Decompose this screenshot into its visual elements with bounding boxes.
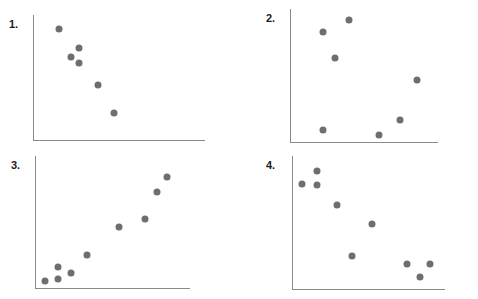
data-point (313, 168, 320, 175)
panel-label-3: 3. (11, 160, 20, 171)
y-axis-4 (292, 156, 293, 289)
x-axis-1 (33, 140, 205, 141)
panel-label-4: 4. (266, 160, 275, 171)
y-axis-1 (33, 15, 34, 140)
data-point (369, 220, 376, 227)
data-point (427, 261, 434, 268)
data-point (55, 26, 62, 33)
data-point (75, 60, 82, 67)
data-point (320, 29, 327, 36)
data-point (54, 276, 61, 283)
data-point (83, 252, 90, 259)
data-point (333, 202, 340, 209)
data-point (95, 82, 102, 89)
data-point (413, 77, 420, 84)
data-point (331, 54, 338, 61)
worksheet-canvas: 1. 2. 3. 4. (0, 0, 478, 299)
data-point (298, 180, 305, 187)
data-point (320, 127, 327, 134)
data-point (396, 117, 403, 124)
data-point (116, 224, 123, 231)
panel-label-2: 2. (266, 13, 275, 24)
data-point (404, 261, 411, 268)
data-point (54, 264, 61, 271)
data-point (67, 269, 74, 276)
data-point (111, 110, 118, 117)
y-axis-3 (35, 156, 36, 288)
data-point (164, 173, 171, 180)
data-point (68, 54, 75, 61)
y-axis-2 (290, 9, 291, 142)
x-axis-4 (292, 289, 445, 290)
x-axis-2 (290, 142, 438, 143)
data-point (375, 131, 382, 138)
data-point (41, 278, 48, 285)
data-point (346, 17, 353, 24)
data-point (313, 181, 320, 188)
data-point (154, 189, 161, 196)
data-point (348, 252, 355, 259)
data-point (75, 45, 82, 52)
data-point (142, 215, 149, 222)
panel-label-1: 1. (9, 19, 18, 30)
x-axis-3 (35, 288, 190, 289)
data-point (417, 274, 424, 281)
